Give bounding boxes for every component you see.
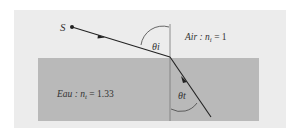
refracted-angle-label: θt <box>178 90 186 101</box>
refraction-diagram: S θi θt Air : ni = 1 Eau : nt = 1.33 <box>0 0 298 140</box>
source-label: S <box>60 21 66 33</box>
incident-angle-label: θi <box>152 41 160 52</box>
